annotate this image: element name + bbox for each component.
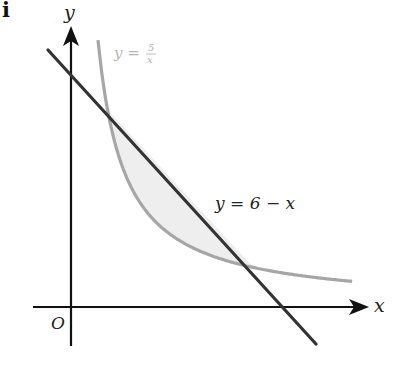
hyperbola-label-denominator: x	[147, 54, 153, 65]
origin-label: O	[51, 313, 65, 333]
hyperbola-label: y = 5 x	[113, 42, 156, 65]
line-label: y = 6 − x	[214, 193, 296, 213]
y-axis-label: y	[63, 1, 75, 23]
x-axis-label: x	[374, 294, 385, 316]
graph: i y x O y = 5 x y = 6 − x	[0, 0, 405, 372]
shaded-region	[108, 110, 254, 268]
hyperbola-label-prefix: y =	[113, 44, 140, 62]
hyperbola-label-numerator: 5	[148, 42, 154, 53]
part-label: i	[2, 0, 10, 22]
